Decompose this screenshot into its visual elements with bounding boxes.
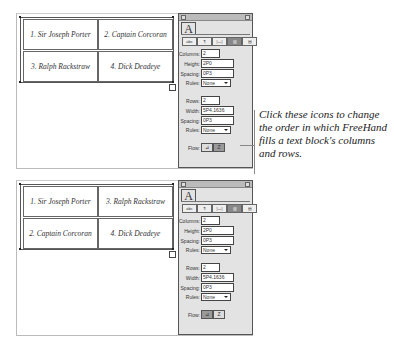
callout-leader <box>240 145 254 146</box>
adjust-columns-icon[interactable]: ▤ <box>242 204 257 213</box>
close-box[interactable] <box>181 182 186 187</box>
character-icon[interactable]: abc <box>182 204 197 213</box>
panel-titlebar[interactable] <box>179 14 252 21</box>
row-spacing-label: Spacing: <box>179 285 201 291</box>
text-cell: 2. Captain Corcoran <box>23 218 98 249</box>
height-field[interactable]: 2P0 <box>201 59 234 68</box>
paragraph-icon[interactable]: ¶ <box>197 37 212 46</box>
row-spacing-field[interactable]: 0P3 <box>201 283 234 292</box>
selection-handle[interactable] <box>172 183 174 185</box>
rows-label: Rows: <box>179 265 201 271</box>
height-label: Height: <box>179 228 201 234</box>
columns-rows-icon[interactable]: ▥ <box>227 37 242 46</box>
callout-bracket <box>254 110 255 174</box>
text-cell: 3. Ralph Rackstraw <box>23 51 98 82</box>
row-spacing-label: Spacing: <box>179 118 201 124</box>
col-rules-select[interactable]: None <box>201 246 231 254</box>
row-rules-select[interactable]: None <box>201 293 231 301</box>
selection-handle[interactable] <box>19 81 21 83</box>
height-label: Height: <box>179 61 201 67</box>
callout-caption: Click these icons to change the order in… <box>259 108 391 160</box>
paragraph-icon[interactable]: ¶ <box>197 204 212 213</box>
col-spacing-field[interactable]: 0P3 <box>201 69 234 78</box>
selection-handle[interactable] <box>172 81 174 83</box>
col-rules-label: Rules: <box>179 80 201 86</box>
col-rules-select[interactable]: None <box>201 79 231 87</box>
columns-label: Columns: <box>179 51 201 57</box>
flow-label: Flow: <box>179 145 201 151</box>
row-rules-select[interactable]: None <box>201 126 231 134</box>
flow-across-icon[interactable]: Z <box>213 143 225 152</box>
col-spacing-field[interactable]: 0P3 <box>201 236 234 245</box>
close-box[interactable] <box>181 15 186 20</box>
row-spacing-field[interactable]: 0P3 <box>201 116 234 125</box>
zoom-box[interactable] <box>245 182 250 187</box>
col-spacing-label: Spacing: <box>179 71 201 77</box>
link-box[interactable] <box>169 251 176 258</box>
character-icon[interactable]: abc <box>182 37 197 46</box>
columns-field[interactable]: 2 <box>201 216 220 225</box>
text-cell: 2. Captain Corcoran <box>98 19 173 50</box>
columns-rows-icon[interactable]: ▥ <box>227 204 242 213</box>
width-label: Width: <box>179 108 201 114</box>
text-cell: 1. Sir Joseph Porter <box>23 19 98 50</box>
row-rules-label: Rules: <box>179 127 201 133</box>
selection-handle[interactable] <box>19 248 21 250</box>
selection-handle[interactable] <box>172 16 174 18</box>
flow-down-icon[interactable]: ⊿ <box>201 310 213 319</box>
zoom-box[interactable] <box>245 15 250 20</box>
col-rules-label: Rules: <box>179 247 201 253</box>
spacing-icon[interactable]: |↔| <box>212 204 227 213</box>
width-label: Width: <box>179 275 201 281</box>
link-box[interactable] <box>169 84 176 91</box>
flow-label: Flow: <box>179 312 201 318</box>
rows-field[interactable]: 2 <box>201 96 220 105</box>
text-block[interactable]: 1. Sir Joseph Porter 3. Ralph Rackstraw … <box>20 184 174 250</box>
col-spacing-label: Spacing: <box>179 238 201 244</box>
rows-label: Rows: <box>179 98 201 104</box>
spacing-icon[interactable]: |↔| <box>212 37 227 46</box>
selection-handle[interactable] <box>172 248 174 250</box>
columns-label: Columns: <box>179 218 201 224</box>
width-field[interactable]: 5P4.1636 <box>201 273 234 282</box>
rows-field[interactable]: 2 <box>201 263 220 272</box>
selection-handle[interactable] <box>19 183 21 185</box>
text-cell: 3. Ralph Rackstraw <box>98 186 173 217</box>
columns-field[interactable]: 2 <box>201 49 220 58</box>
flow-down-icon[interactable]: ⊿ <box>201 143 213 152</box>
panel-titlebar[interactable] <box>179 181 252 188</box>
text-inspector-panel: A abc ¶ |↔| ▥ ▤ Columns:2 Height:2P0 Spa… <box>178 180 253 335</box>
adjust-columns-icon[interactable]: ▤ <box>242 37 257 46</box>
height-field[interactable]: 2P0 <box>201 226 234 235</box>
text-cell: 1. Sir Joseph Porter <box>23 186 98 217</box>
flow-across-icon[interactable]: Z <box>213 310 225 319</box>
selection-handle[interactable] <box>19 16 21 18</box>
text-cell: 4. Dick Deadeye <box>98 218 173 249</box>
text-block[interactable]: 1. Sir Joseph Porter 2. Captain Corcoran… <box>20 17 174 83</box>
width-field[interactable]: 5P4.1636 <box>201 106 234 115</box>
row-rules-label: Rules: <box>179 294 201 300</box>
text-cell: 4. Dick Deadeye <box>98 51 173 82</box>
